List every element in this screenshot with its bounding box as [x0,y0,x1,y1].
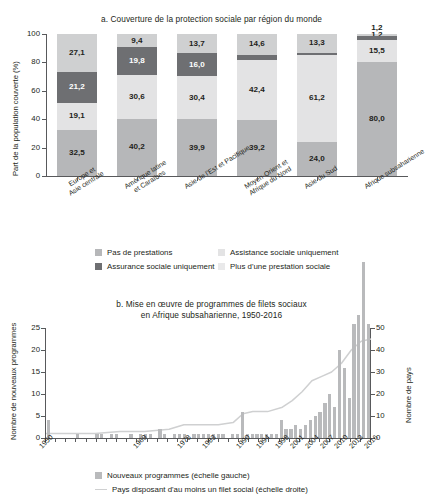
chart-b-trend-line [46,328,371,438]
chart-b-bar [76,434,79,438]
chart-a-x-tickmark [197,177,198,181]
chart-a-y-tick-20: 20 [18,143,40,152]
chart-b-bar [362,262,365,438]
chart-b-right-y-axis-label: Nombre de pays [404,367,413,423]
chart-a-bar: 27,121,219,132,5 [57,34,97,176]
chart-a-legend-swatch [95,263,102,270]
chart-a-segment-value: 40,2 [129,143,145,151]
chart-a-segment-value: 24,0 [309,155,325,163]
chart-b-bar [192,434,195,438]
chart-a-legend-swatch [95,249,102,256]
chart-a-legend-item[interactable]: Assurance sociale uniquement [95,262,214,271]
chart-a-segment-value: 13,3 [309,39,325,47]
chart-b-bar [163,434,166,438]
chart-b-right-tick-10: 10 [376,411,394,420]
chart-b-right-tickmark [371,394,375,395]
chart-b-x-tickmark [157,439,158,442]
chart-a-legend-swatch [218,249,225,256]
chart-b-x-tickmark [228,439,229,442]
chart-a-segment: 21,2 [57,72,97,102]
chart-b-bar [304,425,307,438]
chart-a-x-tickmark [317,177,318,181]
chart-b-right-tickmark [371,350,375,351]
chart-b-bar [275,434,278,438]
chart-a-bar: 9,419,830,640,2 [117,34,157,176]
chart-a-segment: 27,1 [57,34,97,72]
chart-a-segment: 42,4 [237,60,277,120]
chart-a-segment-value: 61,2 [309,94,325,102]
chart-b-bar [338,350,341,438]
chart-b-title-line1: b. Mise en œuvre de programmes de filets… [0,299,423,310]
chart-b-right-tick-30: 30 [376,367,394,376]
chart-a-legend-item[interactable]: Plus d'une prestation sociale [218,262,330,271]
chart-b-legend-item[interactable]: Nouveaux programmes (échelle gauche) [95,471,250,480]
chart-a-segment-value: 80,0 [369,115,385,123]
chart-b-right-tickmark [371,328,375,329]
chart-a-legend-item[interactable]: Pas de prestations [95,248,172,257]
chart-b-bar [318,412,321,438]
chart-b-bar [348,398,351,438]
chart-a-legend-label: Assurance sociale uniquement [107,262,214,271]
chart-b-bar [343,368,346,438]
chart-a-segment: 61,2 [297,55,337,142]
chart-b-bar [255,434,258,438]
chart-a-legend-label: Plus d'une prestation sociale [230,262,330,271]
chart-a-legend-swatch [218,263,225,270]
chart-a-legend-label: Pas de prestations [107,248,172,257]
chart-a-segment-value: 9,4 [131,37,142,45]
chart-b-left-tick-10: 10 [22,389,40,398]
chart-a-legend-label: Assistance sociale uniquement [230,248,338,257]
chart-a-segment-value: 16,0 [189,61,205,69]
chart-a-segment: 80,0 [357,62,397,176]
chart-b-right-tick-40: 40 [376,345,394,354]
chart-a-segment: 13,3 [297,34,337,53]
chart-a-segment-value: 30,4 [189,94,205,102]
chart-a-segment-value: 15,5 [369,47,385,55]
chart-b-x-tickmark [106,439,107,442]
chart-b-x-tickmark [86,439,87,442]
chart-a-y-tick-60: 60 [18,86,40,95]
chart-b-line-path [46,339,371,434]
chart-b-bar [251,434,254,438]
chart-b-bar [333,407,336,438]
chart-b-left-tick-0: 0 [22,433,40,442]
chart-a-segment-value: 19,8 [129,57,145,65]
chart-b-legend-item[interactable]: Pays disposant d'au moins un filet socia… [95,485,308,494]
chart-b-left-y-axis-label: Nombre de nouveaux programmes [9,323,18,440]
chart-b-bar [367,324,370,438]
chart-a-segment: 19,1 [57,103,97,130]
chart-b-bar [289,429,292,438]
chart-b-left-tick-20: 20 [22,345,40,354]
chart-b-bar [110,434,113,438]
chart-a-segment-value: 21,2 [69,83,85,91]
chart-a-segment-value: 42,4 [249,86,265,94]
chart-b-bar [231,434,234,438]
chart-b-right-tick-20: 20 [376,389,394,398]
chart-a-segment: 16,0 [177,53,217,76]
chart-b-x-tickmark [65,439,66,442]
chart-a-bar: 13,361,224,0 [297,34,337,176]
chart-b-right-tickmark [371,416,375,417]
chart-a-y-tick-100: 100 [18,29,40,38]
chart-b-left-tick-15: 15 [22,367,40,376]
chart-b-bar [173,434,176,438]
chart-a-bar: 1,215,580,0 [357,34,397,176]
chart-b-x-tickmark [116,439,117,442]
chart-a-y-tick-40: 40 [18,114,40,123]
chart-b-legend-label: Pays disposant d'au moins un filet socia… [112,485,308,494]
chart-a-segment-value: 30,6 [129,93,145,101]
chart-a-segment: 30,4 [177,76,217,119]
chart-a-y-tick-0: 0 [18,171,40,180]
chart-b-bar [129,434,132,438]
chart-a-segment-value: 27,1 [69,49,85,57]
chart-a-segment: 19,8 [117,47,157,75]
chart-b-right-tick-50: 50 [376,323,394,332]
chart-a-segment-value: 14,6 [249,40,265,48]
chart-a-legend-item[interactable]: Assistance sociale uniquement [218,248,338,257]
chart-b-left-tick-25: 25 [22,323,40,332]
chart-a-segment-value: 32,5 [69,149,85,157]
chart-a-stacked-bar: Part de la population couverte (%) 02040… [0,30,423,245]
chart-a-segment: 13,7 [177,34,217,53]
chart-a-x-tickmark [257,177,258,181]
chart-b-x-tickmark [75,439,76,442]
